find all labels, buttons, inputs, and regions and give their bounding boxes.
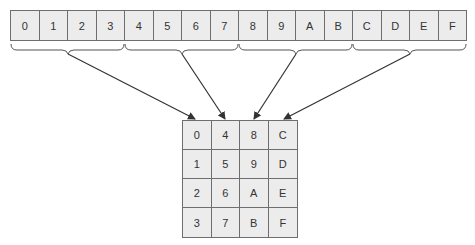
strip-cell: 7 bbox=[211, 11, 240, 40]
matrix-cell: 8 bbox=[240, 121, 269, 150]
strip-cell: E bbox=[410, 11, 439, 40]
matrix-cell: 4 bbox=[212, 121, 241, 150]
strip-cell: F bbox=[439, 11, 467, 40]
strip-cell: 6 bbox=[182, 11, 211, 40]
linear-memory-strip: 0 1 2 3 4 5 6 7 8 9 A B C D E F bbox=[10, 10, 467, 41]
strip-cell: D bbox=[382, 11, 411, 40]
matrix-cell: C bbox=[269, 121, 298, 150]
matrix-cell: 5 bbox=[212, 150, 241, 179]
matrix-cell: 3 bbox=[183, 208, 212, 237]
strip-cell: 2 bbox=[68, 11, 97, 40]
matrix-cell: 6 bbox=[212, 179, 241, 208]
matrix-cell: 7 bbox=[212, 208, 241, 237]
matrix-cell: 9 bbox=[240, 150, 269, 179]
strip-cell: B bbox=[325, 11, 354, 40]
matrix-cell: D bbox=[269, 150, 298, 179]
strip-cell: 4 bbox=[125, 11, 154, 40]
strip-cell: 5 bbox=[154, 11, 183, 40]
strip-cell: 8 bbox=[239, 11, 268, 40]
matrix-grid: 0 4 8 C 1 5 9 D 2 6 A E 3 7 B F bbox=[182, 120, 298, 238]
strip-cell: A bbox=[296, 11, 325, 40]
strip-cell: 1 bbox=[40, 11, 69, 40]
matrix-cell: 0 bbox=[183, 121, 212, 150]
matrix-cell: E bbox=[269, 179, 298, 208]
matrix-cell: A bbox=[240, 179, 269, 208]
matrix-cell: 2 bbox=[183, 179, 212, 208]
matrix-cell: 1 bbox=[183, 150, 212, 179]
strip-cell: C bbox=[353, 11, 382, 40]
matrix-cell: F bbox=[269, 208, 298, 237]
brace-icon bbox=[11, 44, 466, 54]
matrix-cell: B bbox=[240, 208, 269, 237]
arrow-icon bbox=[68, 54, 410, 119]
strip-cell: 3 bbox=[97, 11, 126, 40]
strip-cell: 9 bbox=[268, 11, 297, 40]
strip-cell: 0 bbox=[11, 11, 40, 40]
